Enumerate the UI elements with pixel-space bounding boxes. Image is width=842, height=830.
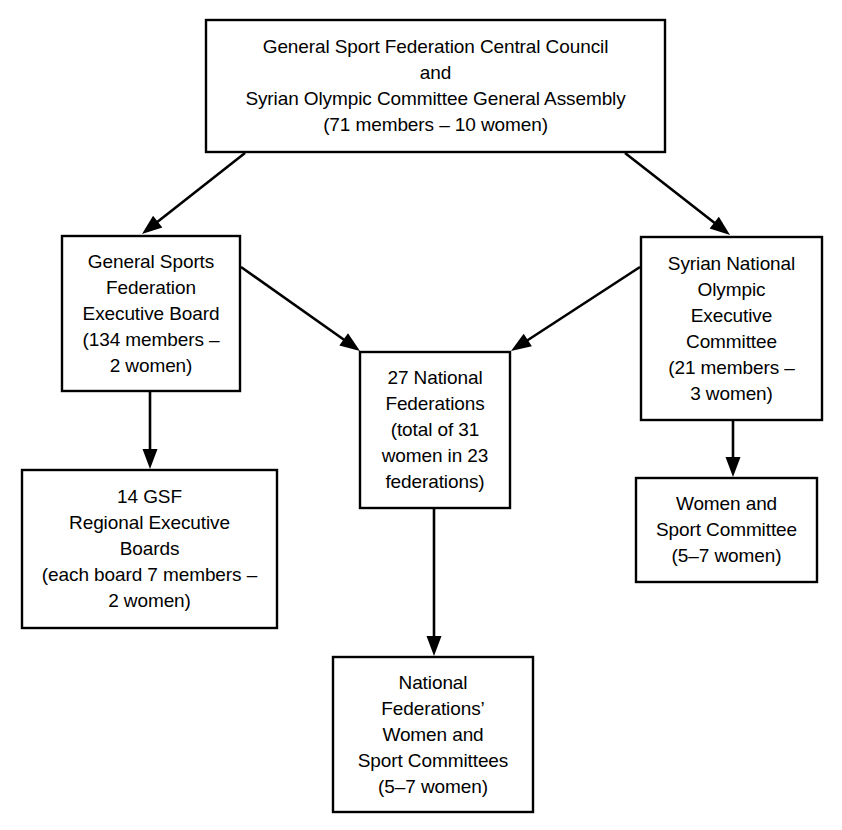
node-box-national-federations xyxy=(360,352,510,508)
edge-shaft xyxy=(525,267,640,342)
edge-gsf-to-regional xyxy=(143,392,158,469)
edge-shaft xyxy=(241,267,346,341)
arrowhead-icon xyxy=(427,636,442,656)
node-boxes-layer xyxy=(22,20,822,812)
edge-olympic-to-women-sport xyxy=(726,421,741,477)
node-box-gsf-executive-board xyxy=(62,236,240,391)
node-box-gsf-regional-boards xyxy=(22,470,277,628)
edge-federations-to-nf-committees xyxy=(427,509,442,656)
org-chart-diagram: General Sport Federation Central Council… xyxy=(0,0,842,830)
edge-council-to-gsf xyxy=(142,153,245,234)
arrowhead-icon xyxy=(143,449,158,469)
node-box-central-council xyxy=(206,20,665,152)
node-box-nf-women-sport-committees xyxy=(333,657,533,812)
diagram-canvas xyxy=(0,0,842,830)
arrowhead-icon xyxy=(339,333,360,351)
edge-shaft xyxy=(625,153,717,225)
edge-council-to-olympic xyxy=(625,153,730,235)
arrowhead-icon xyxy=(511,334,532,351)
node-box-syrian-olympic-executive xyxy=(641,237,822,420)
arrowhead-icon xyxy=(710,217,730,235)
arrowhead-icon xyxy=(142,216,162,234)
edge-gsf-to-federations xyxy=(241,267,360,351)
node-box-women-sport-committee xyxy=(636,478,817,582)
edge-olympic-to-federations xyxy=(511,267,640,351)
edge-shaft xyxy=(155,153,245,223)
arrowhead-icon xyxy=(726,457,741,477)
